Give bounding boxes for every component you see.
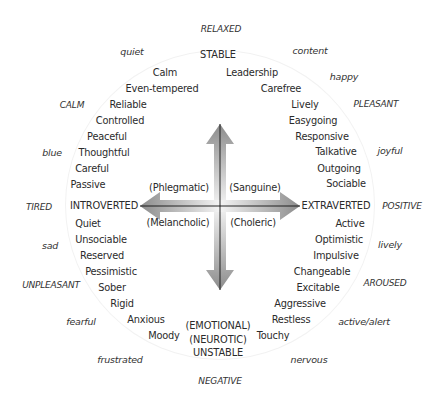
mood-label: UNPLEASANT [22, 281, 80, 290]
temperament-melancholic: (Melancholic) [147, 218, 210, 228]
mood-label: PLEASANT [354, 100, 399, 109]
mood-label: lively [378, 240, 402, 250]
trait-label: Carefree [261, 84, 301, 94]
axis-label-neurotic: (NEUROTIC) [189, 335, 247, 345]
trait-label: Easygoing [289, 116, 338, 126]
trait-label: Pessimistic [85, 267, 137, 277]
trait-label: Moody [148, 331, 179, 341]
trait-label: Sociable [326, 179, 366, 189]
mood-label-negative: NEGATIVE [198, 377, 241, 386]
mood-label: nervous [291, 355, 328, 365]
trait-label: Responsive [295, 132, 349, 142]
trait-label: Lively [291, 100, 318, 110]
mood-label: CALM [60, 101, 84, 110]
trait-label: Active [335, 219, 364, 229]
trait-label: Peaceful [87, 132, 127, 142]
mood-label: frustrated [97, 355, 142, 365]
trait-label: Sober [98, 283, 126, 293]
mood-label: joyful [378, 146, 403, 156]
trait-label: Aggressive [274, 299, 326, 309]
axis-label-introverted: INTROVERTED [70, 201, 138, 211]
axis-label-unstable: UNSTABLE [193, 348, 243, 358]
mood-label: sad [42, 241, 58, 251]
trait-label: Leadership [226, 68, 278, 78]
trait-label: Impulsive [313, 251, 358, 261]
trait-label: Talkative [315, 147, 356, 157]
personality-circumplex-diagram: STABLE INTROVERTED EXTRAVERTED (EMOTIONA… [0, 0, 444, 406]
mood-label: quiet [120, 47, 143, 57]
trait-label: Touchy [257, 331, 290, 341]
trait-label: Thoughtful [78, 148, 129, 158]
mood-label: fearful [66, 317, 96, 327]
mood-label: active/alert [338, 317, 390, 327]
trait-label: Quiet [75, 219, 101, 229]
mood-label: content [293, 46, 328, 56]
trait-label: Careful [75, 164, 109, 174]
trait-label: Even-tempered [126, 84, 199, 94]
trait-label: Reserved [80, 251, 124, 261]
trait-label: Calm [153, 68, 177, 78]
mood-label-tired: TIRED [26, 203, 52, 212]
trait-label: Rigid [110, 299, 134, 309]
trait-label: Optimistic [315, 235, 363, 245]
trait-label: Controlled [96, 116, 144, 126]
temperament-choleric: (Choleric) [230, 218, 276, 228]
temperament-sanguine: (Sanguine) [229, 183, 280, 193]
mood-label: blue [42, 148, 62, 158]
trait-label: Anxious [127, 315, 164, 325]
temperament-phlegmatic: (Phlegmatic) [149, 183, 209, 193]
trait-label: Changeable [294, 267, 350, 277]
axis-label-stable: STABLE [200, 50, 236, 60]
axis-label-emotional: (EMOTIONAL) [186, 321, 251, 331]
mood-label: happy [330, 72, 359, 82]
mood-label-relaxed: RELAXED [201, 25, 242, 34]
mood-label: AROUSED [363, 279, 406, 288]
trait-label: Restless [272, 315, 311, 325]
trait-label: Unsociable [75, 235, 127, 245]
axis-label-extraverted: EXTRAVERTED [302, 201, 371, 211]
trait-label: Reliable [109, 100, 146, 110]
trait-label: Outgoing [317, 164, 361, 174]
mood-label-positive: POSITIVE [382, 202, 421, 211]
trait-label: Passive [71, 180, 106, 190]
trait-label: Excitable [297, 283, 340, 293]
